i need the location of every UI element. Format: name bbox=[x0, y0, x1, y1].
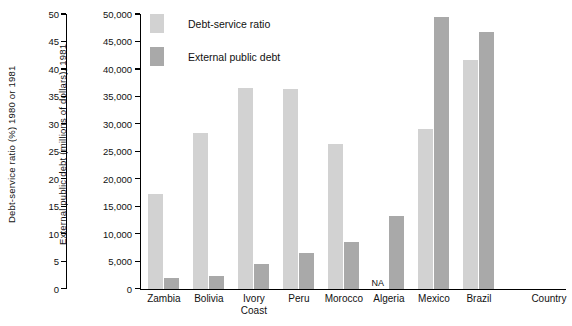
axis-tick bbox=[135, 206, 140, 207]
axis-tick-label: 35 bbox=[38, 91, 59, 102]
bar-external-public-debt bbox=[479, 32, 494, 289]
left-axis-spine bbox=[66, 14, 67, 289]
axis-tick bbox=[61, 288, 66, 289]
axis-tick bbox=[61, 261, 66, 262]
axis-tick-label: 35,000 bbox=[78, 91, 132, 102]
axis-tick-label: 0 bbox=[38, 283, 59, 294]
axis-tick-label: 45,000 bbox=[78, 36, 132, 47]
axis-tick-label: 5,000 bbox=[78, 256, 132, 267]
axis-tick bbox=[61, 233, 66, 234]
axis-tick-label: 30 bbox=[38, 118, 59, 129]
axis-tick-label: 40 bbox=[38, 63, 59, 74]
bar-debt-service-ratio bbox=[193, 133, 208, 288]
axis-tick bbox=[61, 13, 66, 14]
axis-tick bbox=[61, 178, 66, 179]
bar-group bbox=[463, 14, 494, 289]
axis-tick bbox=[135, 68, 140, 69]
bar-group bbox=[283, 14, 314, 289]
axis-tick bbox=[61, 206, 66, 207]
axis-tick bbox=[135, 13, 140, 14]
axis-tick bbox=[61, 96, 66, 97]
axis-tick bbox=[61, 151, 66, 152]
axis-tick bbox=[135, 288, 140, 289]
axis-tick-label: 15 bbox=[38, 201, 59, 212]
bar-group: NA bbox=[373, 14, 404, 289]
bar-external-public-debt bbox=[434, 17, 449, 289]
axis-tick-label: 30,000 bbox=[78, 118, 132, 129]
bar-group bbox=[238, 14, 269, 289]
bar-group bbox=[148, 14, 179, 289]
bar-debt-service-ratio bbox=[283, 89, 298, 288]
axis-tick-label: 0 bbox=[78, 283, 132, 294]
bar-external-public-debt bbox=[344, 242, 359, 289]
plot-area: NA bbox=[141, 14, 565, 289]
axis-tick-label: 50 bbox=[38, 9, 59, 20]
bar-debt-service-ratio bbox=[328, 144, 343, 289]
axis-tick bbox=[61, 123, 66, 124]
axis-tick bbox=[135, 233, 140, 234]
axis-tick-label: 5 bbox=[38, 256, 59, 267]
bar-debt-service-ratio bbox=[463, 60, 478, 288]
axis-tick bbox=[135, 261, 140, 262]
bar-debt-service-ratio bbox=[148, 194, 163, 289]
x-axis-title: Country bbox=[516, 293, 572, 305]
axis-tick bbox=[135, 151, 140, 152]
axis-tick-label: 10,000 bbox=[78, 228, 132, 239]
bar-group bbox=[328, 14, 359, 289]
axis-tick-label: 45 bbox=[38, 36, 59, 47]
axis-tick bbox=[61, 68, 66, 69]
axis-tick-label: 15,000 bbox=[78, 201, 132, 212]
bar-group bbox=[193, 14, 224, 289]
bar-external-public-debt bbox=[254, 264, 269, 288]
axis-tick-label: 25 bbox=[38, 146, 59, 157]
axis-tick bbox=[135, 41, 140, 42]
x-axis-category-label: Brazil bbox=[446, 293, 511, 305]
axis-tick-label: 40,000 bbox=[78, 63, 132, 74]
bar-external-public-debt bbox=[389, 216, 404, 289]
left-axis-title-text: Debt-service ratio (%) 1980 or 1981 bbox=[6, 66, 17, 224]
axis-tick-label: 10 bbox=[38, 228, 59, 239]
axis-tick bbox=[135, 178, 140, 179]
na-label: NA bbox=[371, 278, 384, 288]
axis-tick bbox=[135, 96, 140, 97]
bar-group bbox=[418, 14, 449, 289]
debt-bar-chart: Debt-service ratio (%) 1980 or 1981 Exte… bbox=[0, 0, 572, 326]
bar-debt-service-ratio bbox=[418, 129, 433, 289]
axis-tick bbox=[135, 123, 140, 124]
axis-tick bbox=[61, 41, 66, 42]
axis-tick-label: 20 bbox=[38, 173, 59, 184]
axis-tick-label: 50,000 bbox=[78, 9, 132, 20]
bar-external-public-debt bbox=[209, 276, 224, 289]
left-axis-title: Debt-service ratio (%) 1980 or 1981 bbox=[6, 0, 17, 289]
bar-debt-service-ratio bbox=[238, 88, 253, 289]
x-axis-baseline bbox=[140, 289, 566, 291]
axis-tick-label: 25,000 bbox=[78, 146, 132, 157]
bar-external-public-debt bbox=[164, 278, 179, 289]
bar-external-public-debt bbox=[299, 253, 314, 288]
axis-tick-label: 20,000 bbox=[78, 173, 132, 184]
